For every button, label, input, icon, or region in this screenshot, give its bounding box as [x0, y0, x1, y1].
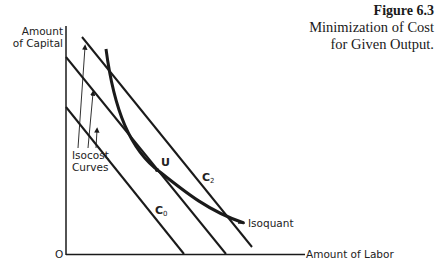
- figure-title-line2: for Given Output.: [309, 36, 434, 53]
- isocost-label-line2: Curves: [72, 161, 109, 173]
- origin-label: O: [55, 248, 63, 260]
- x-axis-label: Amount of Labor: [306, 248, 394, 260]
- c2-subscript: 2: [210, 177, 214, 185]
- tangency-point-label: U: [161, 157, 170, 169]
- y-axis-label-line1: Amount: [0, 25, 63, 37]
- isocost-arrow-1: [78, 47, 85, 148]
- isoquant-label: Isoquant: [248, 217, 294, 229]
- c0-letter: C: [155, 204, 163, 217]
- figure-title-line1: Minimization of Cost: [309, 19, 434, 36]
- figure-6-3: Figure 6.3 Minimization of Cost for Give…: [0, 0, 438, 274]
- figure-number: Figure 6.3: [309, 2, 434, 19]
- c2-letter: C: [202, 171, 210, 184]
- c2-label: C2: [202, 172, 215, 187]
- figure-caption: Figure 6.3 Minimization of Cost for Give…: [309, 2, 434, 53]
- c0-subscript: 0: [163, 210, 167, 218]
- tangency-point: [155, 168, 159, 172]
- y-axis-label-line2: of Capital: [0, 37, 63, 49]
- y-axis-label: Amount of Capital: [0, 25, 63, 49]
- c0-label: C0: [155, 205, 168, 220]
- isoquant-curve: [106, 49, 244, 223]
- isocost-label-line1: Isocost: [72, 149, 109, 161]
- isocost-curves-label: Isocost Curves: [72, 149, 109, 173]
